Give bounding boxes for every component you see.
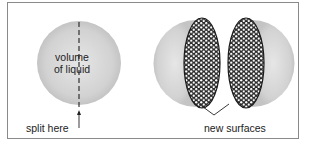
split-here-label: split here bbox=[26, 122, 69, 134]
volume-label: volume of liquid bbox=[46, 51, 98, 75]
new-surface-right bbox=[228, 18, 264, 108]
volume-label-line2: of liquid bbox=[46, 63, 98, 75]
new-surface-left bbox=[184, 18, 220, 108]
split-halves bbox=[154, 18, 295, 115]
new-surfaces-label: new surfaces bbox=[204, 122, 266, 134]
volume-label-line1: volume bbox=[46, 51, 98, 63]
